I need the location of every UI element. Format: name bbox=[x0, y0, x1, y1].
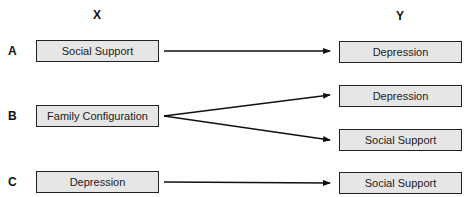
arrow-b1 bbox=[164, 95, 330, 116]
arrow-b2 bbox=[164, 116, 330, 140]
arrow-c bbox=[164, 182, 330, 183]
arrows-layer bbox=[0, 0, 470, 197]
